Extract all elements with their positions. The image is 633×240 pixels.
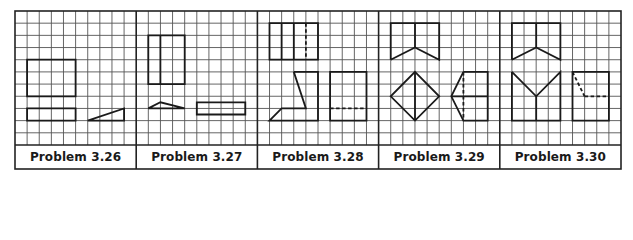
panel-label-3-26: Problem 3.26 [15, 145, 136, 169]
panel-label-3-29: Problem 3.29 [379, 145, 500, 169]
panel-label-3-30: Problem 3.30 [500, 145, 621, 169]
panel-label-3-28: Problem 3.28 [257, 145, 378, 169]
panel-label-3-27: Problem 3.27 [136, 145, 257, 169]
label-row: Problem 3.26 Problem 3.27 Problem 3.28 P… [15, 145, 621, 169]
panel-1-shapes [27, 60, 124, 121]
drawn-figure [88, 108, 124, 120]
drawn-figure [148, 102, 184, 108]
